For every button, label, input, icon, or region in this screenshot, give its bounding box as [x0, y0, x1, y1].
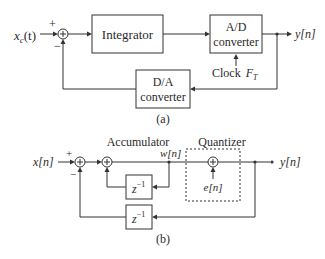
summing-junction-2-icon — [102, 157, 112, 167]
output-label-yn: y[n] — [279, 155, 301, 169]
arrow-head-icon — [87, 32, 92, 37]
diagram-b: Accumulator Quantizer x[n] + − w[n] — [32, 135, 301, 246]
arrow-head-icon — [70, 160, 75, 165]
delta-sigma-diagram: xc(t) + − Integrator A/D converter y[n] — [0, 0, 325, 259]
output-label-yn: y[n] — [294, 27, 316, 41]
input-label-xc: xc(t) — [13, 28, 36, 45]
arrow-head-icon — [53, 32, 58, 37]
ad-label-line2: converter — [213, 35, 258, 49]
caption-b: (b) — [156, 232, 170, 246]
plus-sign: + — [49, 17, 56, 31]
minus-sign: − — [70, 168, 76, 180]
clock-label: ClockFT — [212, 66, 258, 82]
ad-label-line1: A/D — [226, 20, 247, 34]
arrow-head-icon — [190, 87, 195, 92]
caption-a: (a) — [156, 112, 169, 126]
da-label-line2: converter — [140, 90, 185, 104]
e-label: e[n] — [204, 181, 223, 193]
plus-sign: + — [66, 147, 72, 159]
arrow-head-icon — [61, 39, 66, 44]
arrow-head-icon — [287, 32, 292, 37]
minus-sign: − — [54, 39, 61, 53]
quantizer-summing-junction-icon — [208, 157, 218, 167]
arrow-head-icon — [234, 54, 239, 59]
arrow-head-icon — [152, 215, 157, 220]
arrow-head-icon — [152, 185, 157, 190]
integrator-label: Integrator — [102, 27, 154, 42]
quantizer-label: Quantizer — [198, 135, 245, 149]
da-label-line1: D/A — [153, 75, 174, 89]
arrow-head-icon — [97, 160, 102, 165]
output-terminal — [270, 160, 273, 163]
arrow-head-icon — [205, 32, 210, 37]
arrow-head-icon — [78, 167, 83, 172]
arrow-head-icon — [211, 167, 216, 172]
arrow-head-icon — [105, 167, 110, 172]
summing-junction-1-icon — [75, 157, 85, 167]
w-label: w[n] — [160, 147, 181, 159]
diagram-a: xc(t) + − Integrator A/D converter y[n] — [13, 15, 316, 126]
input-label-xn: x[n] — [32, 155, 54, 169]
summing-junction-icon — [58, 29, 68, 39]
